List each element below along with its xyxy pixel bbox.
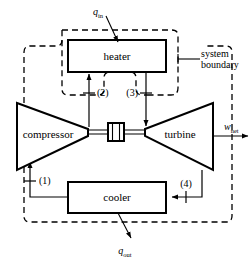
q-in-flow: qin bbox=[93, 6, 118, 42]
w-net-subscript: net bbox=[231, 127, 239, 134]
q-out-flow: qout bbox=[118, 213, 132, 258]
cooler-device: cooler bbox=[68, 182, 166, 213]
state-4-label: (4) bbox=[180, 178, 192, 190]
w-net-label: wnet bbox=[224, 121, 239, 134]
heater-label: heater bbox=[104, 50, 131, 62]
turbine-device: turbine bbox=[145, 103, 213, 170]
q-in-subscript: in bbox=[98, 12, 104, 19]
state-1-label: (1) bbox=[39, 175, 51, 187]
state-3-label: (3) bbox=[126, 87, 138, 99]
shaft-assembly bbox=[87, 123, 146, 141]
system-boundary-callout: system boundary bbox=[178, 48, 239, 70]
compressor-label: compressor bbox=[23, 128, 74, 140]
q-in-arrow bbox=[106, 16, 118, 42]
shaft-coupling-block bbox=[108, 123, 124, 141]
turbine-label: turbine bbox=[164, 128, 195, 140]
boundary-label-line1: system bbox=[201, 48, 229, 59]
w-net-flow: wnet bbox=[213, 121, 248, 136]
compressor-device: compressor bbox=[17, 103, 88, 170]
cooler-label: cooler bbox=[103, 191, 131, 203]
q-out-subscript: out bbox=[123, 251, 132, 258]
diagram-canvas: heater cooler compressor turbine bbox=[0, 0, 251, 262]
q-out-label: qout bbox=[118, 245, 132, 258]
thermodynamic-cycle-diagram: heater cooler compressor turbine bbox=[0, 0, 251, 262]
boundary-label-line2: boundary bbox=[201, 59, 239, 70]
state-2-label: (2) bbox=[97, 87, 109, 99]
q-out-arrow bbox=[118, 213, 131, 238]
q-in-label: qin bbox=[93, 6, 104, 19]
heater-device: heater bbox=[68, 40, 166, 72]
